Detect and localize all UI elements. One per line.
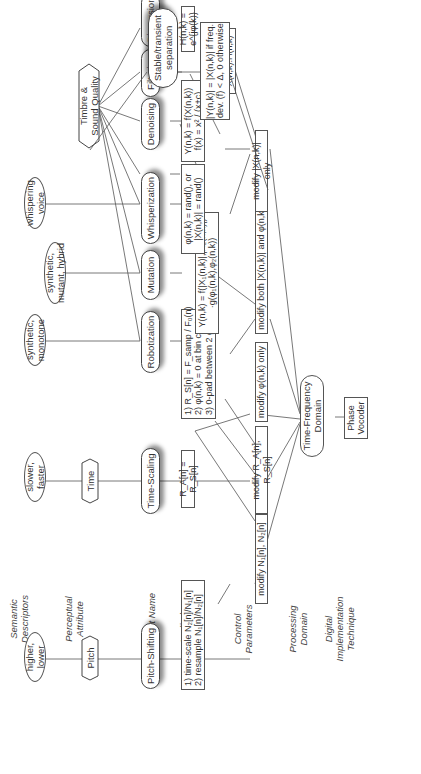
effect-denoising: Denoising: [141, 98, 160, 150]
applied-whisperization: φ(n,k) = rand(), or |X(n,k)| = rand(): [181, 164, 205, 254]
applied-stable-transient: |Y(n,k)| = |X(n,k)| if freq. dev. (f) < …: [200, 22, 230, 120]
row-label-implementation: Digital Implementation Technique: [323, 584, 356, 674]
processing-domain-time-frequency: Time-Frequency Domain: [300, 375, 324, 457]
perceptual-time-label: Time: [85, 471, 96, 492]
control-modify-magnitude-only: modify |X(n,k)| only: [255, 130, 268, 212]
control-modify-ra-rs: modify R_A[n], R_S[n]: [255, 426, 268, 514]
effect-robotization: Robotization: [141, 311, 160, 373]
implementation-phase-vocoder: Phase Vocoder: [344, 397, 368, 439]
semantic-synthetic-mutant-hybrid: synthetic, mutant, hybrid: [44, 242, 66, 304]
control-modify-n1-n2: modify N₁[n], N₂[n]: [255, 514, 268, 604]
applied-time-scaling: R_A[n] = R_S[n]: [181, 450, 195, 508]
control-modify-phase-only: modify φ(n,k) only: [255, 342, 268, 422]
perceptual-time: Time: [81, 458, 99, 504]
perceptual-timbre-label: Timbre & Sound Quality: [78, 76, 100, 136]
perceptual-pitch: Pitch: [81, 635, 99, 681]
applied-pitch-shifting: 1) time-scale N₂[n]/N₁[n] 2) resample N₁…: [181, 580, 205, 690]
row-label-control-parameters: Control Parameters: [232, 584, 254, 674]
row-label-processing-domain: Processing Domain: [287, 584, 309, 674]
applied-dispersion: H(n,k) = e^{jφ(k)}: [181, 6, 195, 52]
effect-stable-transient-separation: Stable/transient separation: [148, 8, 178, 88]
effect-whisperization: Whisperization: [141, 172, 160, 244]
effect-pitch-shifting: Pitch-Shifting: [141, 623, 160, 689]
effect-mutation: Mutation: [141, 250, 160, 300]
perceptual-pitch-label: Pitch: [85, 647, 96, 668]
semantic-higher-lower: higher, lower: [24, 632, 46, 682]
semantic-slower-faster: slower, faster: [24, 452, 46, 502]
perceptual-timbre-sound-quality: Timbre & Sound Quality: [78, 63, 100, 149]
semantic-whispering-voice: whispering voice: [24, 177, 46, 229]
semantic-synthetic-monotone: synthetic, monotone: [24, 314, 46, 366]
effect-time-scaling: Time-Scaling: [141, 448, 160, 514]
control-modify-magnitude-and-phase: modify both |X(n,k)| and φ(n,k): [255, 204, 268, 334]
